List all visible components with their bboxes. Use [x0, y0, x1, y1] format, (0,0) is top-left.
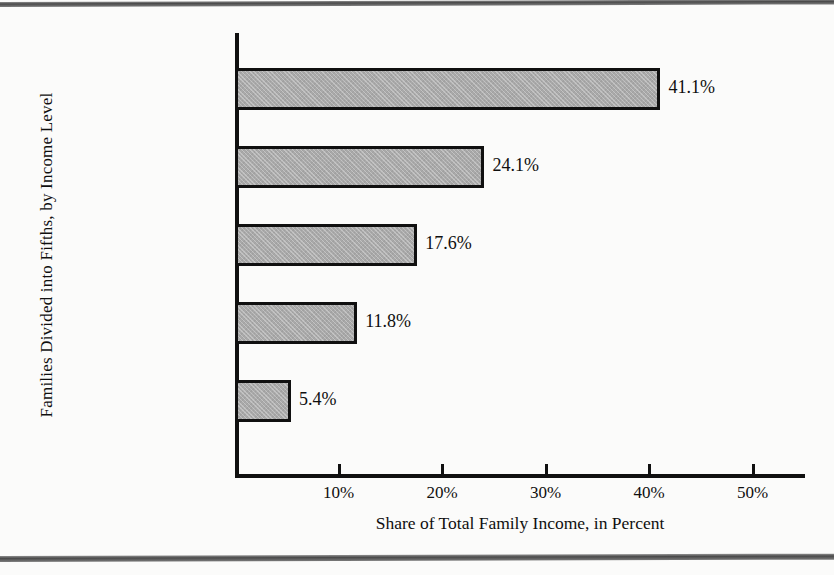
- x-tick-mark: [752, 464, 755, 476]
- page-rule-top: [0, 0, 834, 7]
- x-tick-mark: [441, 464, 444, 476]
- bar[interactable]: [235, 224, 417, 266]
- x-tick-mark: [545, 464, 548, 476]
- x-tick-mark: [648, 464, 651, 476]
- chart-figure: Families Divided into Fifths, by Income …: [0, 0, 834, 575]
- bar[interactable]: [235, 302, 357, 344]
- bar[interactable]: [235, 68, 660, 110]
- bar-value-label: 24.1%: [492, 155, 539, 176]
- plot-area: 10%20%30%40%50% 41.1%Top fifth($23,924 a…: [235, 33, 805, 478]
- page-rule-bottom: [0, 554, 834, 562]
- x-axis-line: [235, 474, 805, 478]
- bar[interactable]: [235, 146, 484, 188]
- x-tick-label: 40%: [633, 483, 664, 503]
- x-tick-label: 20%: [426, 483, 457, 503]
- x-tick-label: 50%: [737, 483, 768, 503]
- x-tick-label: 10%: [323, 483, 354, 503]
- y-axis-title: Families Divided into Fifths, by Income …: [37, 40, 57, 470]
- bar-value-label: 17.6%: [425, 233, 472, 254]
- x-axis-title: Share of Total Family Income, in Percent: [235, 513, 805, 534]
- bar-value-label: 5.4%: [299, 389, 337, 410]
- bar[interactable]: [235, 380, 291, 422]
- bar-value-label: 41.1%: [668, 77, 715, 98]
- bar-value-label: 11.8%: [365, 311, 411, 332]
- x-tick-mark: [338, 464, 341, 476]
- x-tick-label: 30%: [530, 483, 561, 503]
